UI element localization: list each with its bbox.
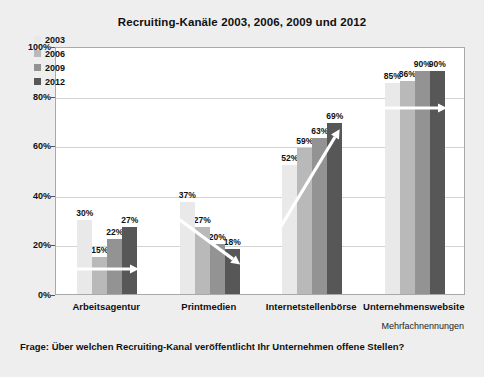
category-label-1: Printmedien [181, 301, 236, 312]
plot-area: 30%15%22%27%37%27%20%18%52%59%63%69%85%8… [55, 47, 465, 295]
y-axis-tick-label: 0% [17, 290, 51, 300]
legend-swatch-icon [34, 36, 41, 43]
footnote-multiple-answers: Mehrfachnennungen [381, 321, 464, 331]
survey-question: Frage: Über welchen Recruiting-Kanal ver… [20, 341, 404, 352]
legend-swatch-icon [34, 78, 41, 85]
legend-swatch-icon [34, 64, 41, 71]
chart-board: Recruiting-Kanäle 2003, 2006, 2009 und 2… [12, 8, 472, 360]
chart-title: Recruiting-Kanäle 2003, 2006, 2009 und 2… [12, 16, 472, 28]
legend-label: 2009 [45, 63, 65, 73]
y-axis-tick-label: 40% [17, 191, 51, 201]
bar-group-3 [385, 48, 445, 294]
y-axis-tick-label: 80% [17, 92, 51, 102]
y-axis-tick-label: 60% [17, 141, 51, 151]
legend-item-2003[interactable]: 2003 [34, 33, 65, 46]
trend-arrow-down-1 [176, 205, 253, 271]
legend-swatch-icon [34, 50, 41, 57]
legend-item-2006[interactable]: 2006 [34, 47, 65, 60]
legend-label: 2003 [45, 35, 65, 45]
legend-label: 2006 [45, 49, 65, 59]
legend: 2003200620092012 [34, 33, 65, 89]
category-label-0: Arbeitsagentur [72, 301, 140, 312]
trend-arrow-flat-3 [381, 96, 458, 120]
y-axis-tick-mark [51, 295, 55, 296]
y-axis-tick-label: 20% [17, 240, 51, 250]
legend-item-2012[interactable]: 2012 [34, 75, 65, 88]
slide-canvas: Recruiting-Kanäle 2003, 2006, 2009 und 2… [0, 0, 484, 377]
category-label-2: Internetstellenbörse [266, 301, 357, 312]
trend-arrow-flat-0 [73, 257, 150, 281]
legend-label: 2012 [45, 77, 65, 87]
legend-item-2009[interactable]: 2009 [34, 61, 65, 74]
trend-arrow-up-2 [278, 125, 355, 243]
category-label-3: Unternehmenswebsite [363, 301, 464, 312]
